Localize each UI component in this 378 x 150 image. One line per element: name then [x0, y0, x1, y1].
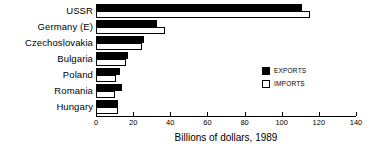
x-tick-label: 40 [158, 119, 182, 127]
bar-imports [96, 11, 310, 18]
bar-imports [96, 91, 115, 98]
x-axis-title: Billions of dollars, 1989 [96, 132, 356, 143]
category-label: Romania [0, 86, 93, 96]
x-tick-label: 120 [307, 119, 331, 127]
plot-area [96, 0, 358, 116]
x-tick-label: 100 [270, 119, 294, 127]
x-axis-line [96, 116, 356, 117]
bar-exports [96, 36, 144, 43]
bar-imports [96, 43, 142, 50]
legend-swatch-exports [262, 67, 270, 75]
x-tick [319, 112, 320, 116]
bar-exports [96, 52, 128, 59]
bar-imports [96, 107, 118, 114]
x-tick [356, 112, 357, 116]
bar-chart: USSRGermany (E)CzechoslovakiaBulgariaPol… [0, 0, 378, 150]
bar-exports [96, 84, 122, 91]
x-tick [282, 112, 283, 116]
category-label: Poland [0, 70, 93, 80]
bar-exports [96, 4, 302, 11]
category-label: Germany (E) [0, 22, 93, 32]
category-axis-labels: USSRGermany (E)CzechoslovakiaBulgariaPol… [0, 0, 93, 116]
category-label: USSR [0, 6, 93, 16]
legend-item: IMPORTS [262, 78, 306, 89]
category-label: Hungary [0, 102, 93, 112]
legend-label: EXPORTS [274, 67, 306, 75]
x-tick [96, 112, 97, 116]
bar-imports [96, 59, 126, 66]
bar-exports [96, 20, 157, 27]
category-label: Czechoslovakia [0, 38, 93, 48]
bar-exports [96, 100, 118, 107]
x-tick [245, 112, 246, 116]
bar-imports [96, 27, 165, 34]
x-tick-label: 20 [121, 119, 145, 127]
x-tick-label: 140 [344, 119, 368, 127]
bar-exports [96, 68, 120, 75]
x-tick [170, 112, 171, 116]
legend-item: EXPORTS [262, 65, 306, 76]
legend-label: IMPORTS [274, 80, 305, 88]
x-tick-label: 0 [84, 119, 108, 127]
x-tick [207, 112, 208, 116]
category-label: Bulgaria [0, 54, 93, 64]
legend-swatch-imports [262, 80, 270, 88]
x-tick-label: 60 [195, 119, 219, 127]
bar-imports [96, 75, 116, 82]
chart-legend: EXPORTSIMPORTS [262, 65, 306, 91]
x-tick-label: 80 [233, 119, 257, 127]
x-tick [133, 112, 134, 116]
